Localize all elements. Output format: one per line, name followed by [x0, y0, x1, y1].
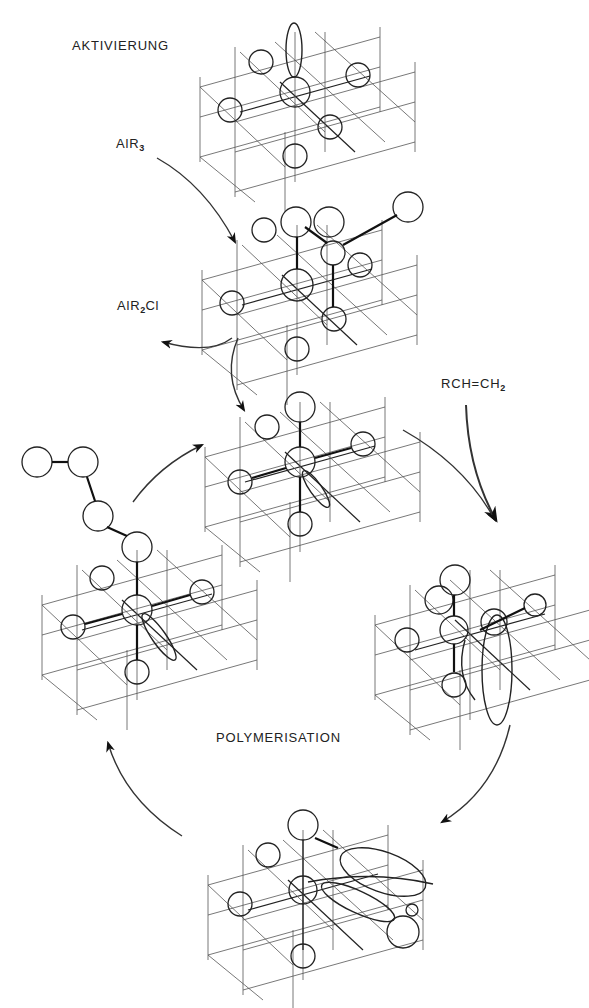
- arrow-to-active-center: [231, 338, 244, 410]
- label-polymerisation: POLYMERISATION: [216, 730, 341, 745]
- monomer-text: RCH=CH: [441, 376, 500, 391]
- structure-alr3-complex: [202, 192, 423, 405]
- arrow-cycle-4: [133, 445, 202, 502]
- activation-text: AKTIVIERUNG: [72, 38, 169, 53]
- arrow-cycle-1: [403, 430, 495, 520]
- label-activation: AKTIVIERUNG: [72, 38, 169, 53]
- alr3-subscript: 3: [139, 143, 144, 153]
- polymerisation-text: POLYMERISATION: [216, 730, 341, 745]
- structure-active-center: [205, 392, 420, 582]
- label-alr3: AlR3: [116, 136, 144, 153]
- alr2cl-suffix: Cl: [145, 298, 159, 313]
- arrow-cycle-3: [108, 743, 182, 836]
- structure-chain-grown: [22, 447, 257, 730]
- structure-insertion: [208, 810, 433, 1008]
- arrow-cycle-2: [442, 725, 510, 822]
- mechanism-diagram: [0, 0, 589, 1008]
- alr3-text: AlR: [116, 136, 139, 151]
- structure-olefin-coordination: [375, 565, 589, 750]
- structure-ti-vacant-orbital: [200, 23, 415, 212]
- label-alr2cl: AlR2Cl: [117, 298, 159, 315]
- monomer-subscript: 2: [500, 383, 505, 393]
- arrow-monomer-in: [466, 405, 496, 520]
- label-monomer: RCH=CH2: [441, 376, 505, 393]
- alr2cl-text: AlR: [117, 298, 140, 313]
- arrow-alr3-in: [157, 158, 235, 242]
- arrow-alr2cl-out: [163, 338, 232, 348]
